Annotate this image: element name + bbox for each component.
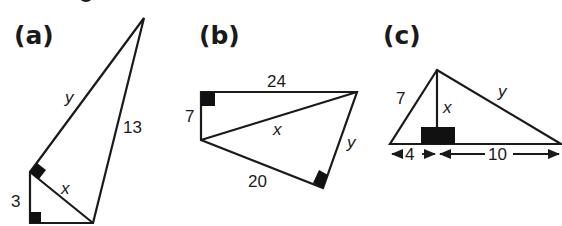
label-y-a: y — [64, 88, 75, 107]
label-24-b: 24 — [267, 72, 286, 91]
label-4-c: 4 — [405, 145, 414, 164]
right-angle-marker-c — [421, 127, 455, 144]
right-angle-marker-a-top — [30, 163, 46, 179]
panel-a: (a) y 13 x 3 — [11, 18, 144, 223]
label-7-c: 7 — [396, 89, 405, 108]
panel-c-label: (c) — [383, 21, 421, 50]
triangle-c — [390, 70, 561, 144]
label-13-a: 13 — [123, 118, 142, 137]
label-x-a: x — [60, 179, 70, 198]
label-x-b: x — [272, 120, 282, 139]
label-y-b: y — [346, 133, 357, 152]
label-20-b: 20 — [248, 172, 267, 191]
right-angle-marker-a-bottom — [30, 212, 41, 223]
panel-c: (c) 7 x y 4 10 — [383, 21, 561, 164]
panel-a-label: (a) — [14, 21, 54, 50]
label-y-c: y — [497, 82, 508, 101]
label-x-c: x — [442, 98, 452, 117]
panel-b-label: (b) — [199, 21, 240, 50]
diagram-canvas: (a) y 13 x 3 (b) 24 7 x y 20 (c) 7 x y — [0, 0, 562, 226]
label-10-c: 10 — [488, 145, 507, 164]
label-7-b: 7 — [185, 107, 194, 126]
cropped-glyph — [80, 0, 92, 1]
quadrilateral-b — [201, 92, 357, 188]
right-angle-marker-b-top — [201, 92, 215, 106]
label-3-a: 3 — [11, 192, 20, 211]
panel-b: (b) 24 7 x y 20 — [185, 21, 357, 191]
